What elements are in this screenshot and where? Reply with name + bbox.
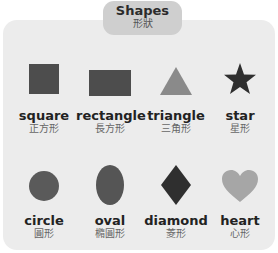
shape-label-zh: 正方形 [10, 123, 78, 135]
shape-card-oval: oval 橢圓形 [76, 165, 144, 240]
shape-label-en: oval [76, 213, 144, 228]
header-subtitle: 形狀 [103, 18, 182, 30]
header-title: Shapes [103, 3, 182, 18]
shape-label-zh: 菱形 [142, 228, 210, 240]
shape-card-circle: circle 圓形 [10, 165, 78, 240]
oval-icon [96, 165, 124, 205]
star-icon [223, 62, 257, 96]
shape-label-en: diamond [142, 213, 210, 228]
shape-label-en: circle [10, 213, 78, 228]
shape-label-en: triangle [142, 108, 210, 123]
shape-card-heart: heart 心形 [206, 165, 274, 240]
shape-label-en: heart [206, 213, 274, 228]
shape-card-square: square 正方形 [10, 60, 78, 135]
shapes-header-tab: Shapes 形狀 [103, 1, 182, 35]
shape-card-triangle: triangle 三角形 [142, 60, 210, 135]
shape-card-rectangle: rectangle 長方形 [76, 60, 144, 135]
shape-label-zh: 圓形 [10, 228, 78, 240]
rectangle-icon [89, 70, 131, 96]
shape-label-zh: 三角形 [142, 123, 210, 135]
square-icon [29, 64, 59, 94]
shape-label-zh: 星形 [206, 123, 274, 135]
shape-label-zh: 長方形 [76, 123, 144, 135]
shape-label-en: square [10, 108, 78, 123]
heart-icon [221, 169, 259, 203]
shape-label-zh: 心形 [206, 228, 274, 240]
shape-label-en: rectangle [76, 108, 144, 123]
shape-label-zh: 橢圓形 [76, 228, 144, 240]
triangle-icon [159, 66, 193, 96]
shape-card-star: star 星形 [206, 60, 274, 135]
shape-card-diamond: diamond 菱形 [142, 165, 210, 240]
shape-label-en: star [206, 108, 274, 123]
diamond-icon [160, 165, 192, 205]
circle-icon [29, 171, 59, 201]
